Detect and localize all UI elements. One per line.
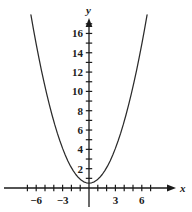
y-axis-label: y [86,5,91,16]
y-tick-label: 10 [72,86,83,97]
y-tick-label: 12 [72,67,83,78]
x-tick-label: −6 [30,195,42,206]
y-tick-label: 6 [78,125,84,136]
y-axis-arrow-icon [86,18,93,27]
x-axis-label: x [180,183,186,194]
y-tick-label: 16 [72,28,83,39]
y-tick-label: 4 [78,144,84,155]
x-axis-arrow-icon [167,185,176,192]
plot-canvas [0,0,192,212]
x-tick-label: 6 [139,195,145,206]
y-tick-label: 2 [78,163,84,174]
y-tick-label: 8 [78,105,84,116]
parabola-graph-figure: y x 246810121416 −6−336 [0,0,192,212]
x-tick-label: −3 [57,195,69,206]
y-tick-label: 14 [72,47,83,58]
x-tick-label: 3 [113,195,119,206]
